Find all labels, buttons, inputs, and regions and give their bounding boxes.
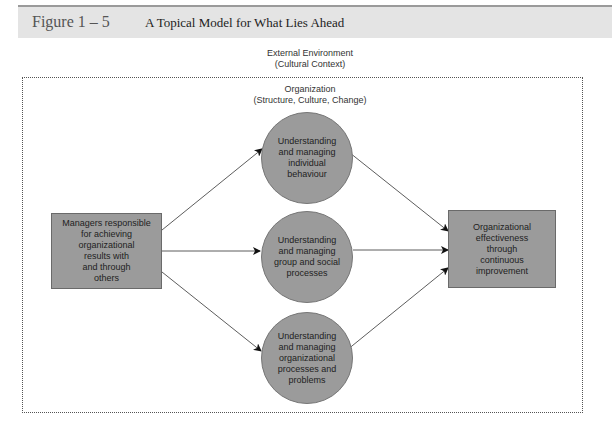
arrow-managers-to-processes	[162, 272, 261, 351]
organizational-processes-circle: Understanding and managing organizationa…	[261, 312, 353, 404]
effectiveness-text: Organizational effectiveness through con…	[473, 222, 531, 277]
arrow-managers-to-individual	[162, 149, 262, 230]
managers-box: Managers responsible for achieving organ…	[51, 213, 162, 289]
individual-behaviour-circle: Understanding and managing individual be…	[261, 112, 353, 204]
arrow-individual-to-effectiveness	[345, 149, 448, 231]
effectiveness-box: Organizational effectiveness through con…	[448, 210, 556, 288]
managers-text: Managers responsible for achieving organ…	[62, 218, 151, 284]
arrow-processes-to-effectiveness	[347, 268, 448, 350]
organizational-processes-text: Understanding and managing organizationa…	[278, 331, 337, 386]
group-processes-circle: Understanding and managing group and soc…	[261, 211, 353, 303]
individual-behaviour-text: Understanding and managing individual be…	[278, 136, 337, 180]
group-processes-text: Understanding and managing group and soc…	[274, 235, 340, 279]
